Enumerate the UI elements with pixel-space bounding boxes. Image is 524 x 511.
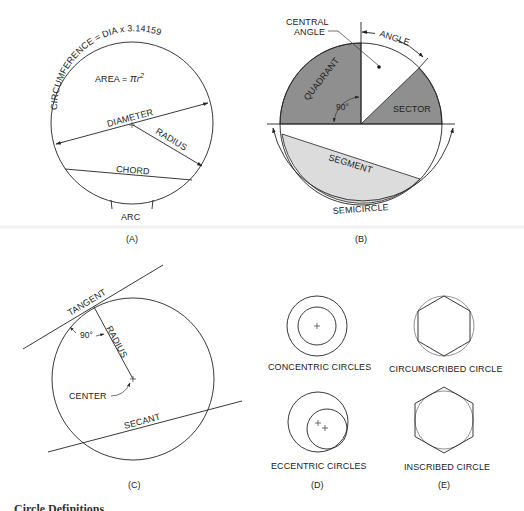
hexagon <box>415 387 473 453</box>
circumscribed-figure <box>414 296 474 356</box>
panel-a: CIRCUMFERENCE = DIA x 3.14159 AREA = πr2… <box>49 23 213 244</box>
sector-region <box>361 68 442 124</box>
tangent-line <box>23 265 163 349</box>
secant-label: SECANT <box>123 412 162 431</box>
inscribed-figure <box>415 387 473 453</box>
right-angle-label-b: 90° <box>336 102 349 112</box>
panel-b-caption: (B) <box>355 234 367 244</box>
center-leader <box>111 383 130 396</box>
arc-label: ARC <box>121 212 141 222</box>
circle-definitions-figure: CIRCUMFERENCE = DIA x 3.14159 AREA = πr2… <box>0 0 524 511</box>
right-angle-label-c: 90° <box>80 330 93 340</box>
circumference-label: CIRCUMFERENCE = DIA x 3.14159 <box>49 23 163 110</box>
circumscribed-label: CIRCUMSCRIBED CIRCLE <box>389 364 503 374</box>
panel-d-caption: (D) <box>311 480 324 490</box>
hexagon <box>418 296 470 356</box>
secant-line <box>48 401 242 452</box>
center-label: CENTER <box>69 391 107 401</box>
concentric-label: CONCENTRIC CIRCLES <box>268 362 371 372</box>
eccentric-circles <box>288 392 348 452</box>
figure-caption-truncated: Circle Definitions <box>14 503 104 511</box>
concentric-circles <box>287 296 347 356</box>
sector-label: SECTOR <box>393 104 431 114</box>
panel-c-caption: (C) <box>128 480 141 490</box>
radius-label-c: RADIUS <box>104 324 129 359</box>
circumscribed-circle <box>414 296 474 356</box>
panel-b: ANGLE CENTRAL ANGLE QUADRANT 90° SECTOR … <box>267 17 455 244</box>
panel-c: TANGENT RADIUS 90° CENTER SECANT (C) <box>23 265 242 490</box>
area-label: AREA = πr2 <box>95 72 144 84</box>
inscribed-circle <box>415 391 473 449</box>
panel-e: CIRCUMSCRIBED CIRCLE INSCRIBED CIRCLE (E… <box>389 296 503 490</box>
panel-e-caption: (E) <box>438 480 450 490</box>
right-angle-arrow-left <box>70 327 76 333</box>
panel-d: CONCENTRIC CIRCLES ECCENTRIC CIRCLES (D) <box>268 296 371 490</box>
central-angle-label-line1: CENTRAL <box>286 17 329 27</box>
radius-label: RADIUS <box>154 126 189 152</box>
chord-label: CHORD <box>116 164 151 176</box>
eccentric-label: ECCENTRIC CIRCLES <box>271 461 367 471</box>
right-angle-arrow-right <box>96 334 104 336</box>
central-angle-label-line2: ANGLE <box>294 27 325 37</box>
panel-a-caption: (A) <box>126 234 138 244</box>
inscribed-label: INSCRIBED CIRCLE <box>404 462 490 472</box>
central-angle-dot <box>377 65 381 69</box>
diameter-label: DIAMETER <box>106 107 155 129</box>
eccentric-inner-circle <box>307 409 347 449</box>
tangent-label: TANGENT <box>66 287 108 318</box>
angle-extension-line <box>419 58 428 68</box>
